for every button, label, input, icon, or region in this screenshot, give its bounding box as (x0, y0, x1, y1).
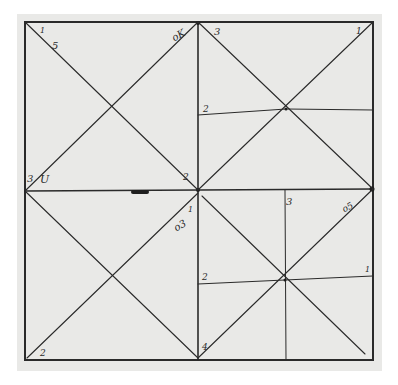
label: 1 (365, 265, 370, 274)
intersection-dot (284, 279, 287, 282)
label: 5 (52, 40, 58, 51)
label: 2 (182, 172, 189, 182)
label: 3 (214, 26, 220, 37)
intersection-dot (285, 108, 288, 111)
ink-dot-right (370, 187, 375, 192)
label: 1 (356, 26, 362, 36)
diagram-canvas: 1 5 oK 3 U 2 3 1 2 2 o3 1 3 o5 1 2 4 (0, 0, 398, 385)
label: 4 (201, 342, 208, 352)
label: 2 (201, 272, 208, 282)
label: U (40, 173, 50, 186)
label: 1 (40, 26, 45, 35)
label: 1 (188, 205, 193, 214)
label: 3 (286, 196, 292, 207)
label: 3 (27, 173, 33, 184)
label: 2 (39, 348, 46, 358)
label: 2 (202, 104, 209, 114)
ink-smudge (131, 190, 149, 194)
